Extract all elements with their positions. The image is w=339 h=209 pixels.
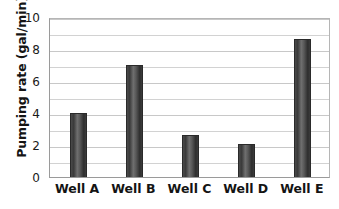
x-axis-tick-label: Well B: [111, 181, 155, 196]
x-axis-tick-label: Well D: [223, 181, 268, 196]
bar-well-d: [238, 144, 255, 177]
y-axis-tick-label: 0: [0, 171, 40, 185]
y-axis-tick-label: 4: [0, 107, 40, 121]
y-axis-tick-label: 10: [0, 11, 40, 25]
bar-well-b: [126, 65, 143, 177]
x-axis-tick-label: Well A: [55, 181, 99, 196]
bar-well-e: [294, 39, 311, 177]
x-axis-tick-label: Well C: [168, 181, 212, 196]
x-axis-tick-label: Well E: [280, 181, 323, 196]
plot-area: [49, 18, 330, 178]
bar-well-a: [70, 113, 87, 177]
bar-well-c: [182, 135, 199, 177]
bar-chart: Pumping rate (gal/min) 0246810 Well AWel…: [0, 0, 339, 209]
x-axis-tick-labels: Well AWell BWell CWell DWell E: [49, 181, 330, 203]
y-axis-tick-label: 8: [0, 43, 40, 57]
y-axis-tick-label: 6: [0, 75, 40, 89]
bars-group: [50, 19, 329, 177]
y-axis-tick-label: 2: [0, 139, 40, 153]
y-axis-tick-labels: 0246810: [0, 0, 46, 209]
